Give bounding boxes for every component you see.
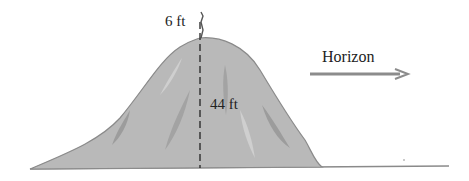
speck (403, 159, 405, 161)
person-height-label: 6 ft (165, 13, 185, 30)
horizon-label: Horizon (322, 48, 374, 66)
diagram-graphic (0, 0, 469, 181)
hill-height-label: 44 ft (210, 96, 238, 113)
person-figure (201, 12, 203, 38)
hill-horizon-diagram: 6 ft 44 ft Horizon (0, 0, 469, 181)
hill-shape (30, 38, 322, 169)
